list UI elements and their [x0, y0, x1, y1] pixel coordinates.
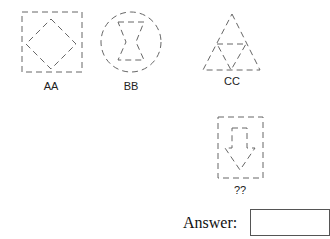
answer-input[interactable] [250, 209, 330, 236]
answer-label: Answer: [183, 214, 237, 232]
label-bb: BB [111, 80, 151, 92]
figure-question [218, 117, 263, 178]
label-question: ?? [220, 184, 260, 196]
figure-aa [22, 12, 82, 72]
label-aa: AA [31, 80, 71, 92]
figure-bb [101, 12, 161, 72]
square-shape [22, 12, 82, 72]
hourglass-shape [118, 22, 144, 60]
square-shape [218, 117, 263, 178]
figure-cc [203, 14, 260, 70]
inverted-triangle-shape [217, 44, 246, 70]
circle-shape [101, 12, 161, 72]
label-cc: CC [212, 75, 252, 87]
triangle-shape [203, 14, 260, 70]
diamond-shape [26, 19, 76, 69]
down-arrow-shape [225, 128, 255, 170]
